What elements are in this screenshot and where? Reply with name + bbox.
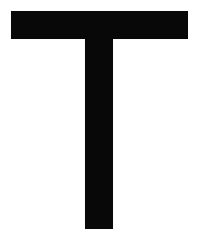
letter-t-crossbar	[11, 11, 188, 39]
image-canvas: T	[0, 0, 199, 251]
letter-t-stem	[85, 38, 113, 229]
letter-t-glyph	[0, 0, 199, 251]
